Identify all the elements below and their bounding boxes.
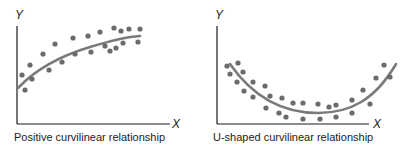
data-point [373, 75, 378, 80]
data-point [59, 59, 64, 64]
data-point [120, 40, 125, 45]
data-point [276, 110, 281, 115]
data-point [113, 45, 118, 50]
data-point [85, 33, 90, 38]
data-point [279, 95, 284, 100]
data-point [250, 79, 255, 84]
data-point [300, 100, 305, 105]
plot-canvas [0, 0, 406, 152]
data-point [111, 25, 116, 30]
data-point [227, 71, 232, 76]
data-point [118, 28, 123, 33]
data-point [107, 48, 112, 53]
data-point [22, 87, 27, 92]
data-point [317, 116, 322, 121]
axes-left [17, 26, 170, 124]
data-point [137, 26, 142, 31]
data-point [224, 63, 229, 68]
data-point [52, 41, 57, 46]
data-point [97, 29, 102, 34]
data-point [72, 51, 77, 56]
data-point [40, 51, 45, 56]
data-point [135, 39, 140, 44]
data-point [126, 26, 131, 31]
data-point [102, 43, 107, 48]
scatter-series-u-shaped [224, 60, 396, 121]
data-point [234, 79, 239, 84]
data-point [29, 76, 34, 81]
data-point [283, 114, 288, 119]
data-point [250, 94, 255, 99]
data-point [262, 83, 267, 88]
data-point [349, 110, 354, 115]
data-point [300, 116, 305, 121]
data-point [235, 60, 240, 65]
data-point [19, 72, 24, 77]
data-point [267, 93, 272, 98]
data-point [326, 104, 331, 109]
data-point [387, 74, 392, 79]
data-point [88, 49, 93, 54]
scatter-series-positive [18, 25, 143, 92]
data-point [315, 101, 320, 106]
data-point [367, 101, 372, 106]
data-point [70, 35, 75, 40]
data-point [241, 88, 246, 93]
data-point [333, 114, 338, 119]
data-point [349, 97, 354, 102]
data-point [333, 102, 338, 107]
data-point [360, 87, 365, 92]
data-point [290, 100, 295, 105]
data-point [263, 105, 268, 110]
data-point [27, 62, 32, 67]
data-point [46, 67, 51, 72]
data-point [240, 69, 245, 74]
data-point [381, 62, 386, 67]
